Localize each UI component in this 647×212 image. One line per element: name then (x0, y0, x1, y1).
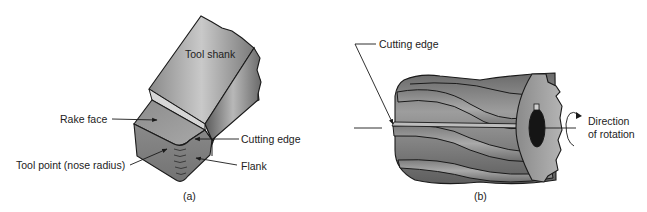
label-direction: Direction (588, 115, 630, 127)
leader-cutting-edge-b (355, 44, 393, 124)
single-point-tool-figure: Tool shank Rake face Cutting edge Tool p… (16, 16, 301, 202)
label-tool-shank: Tool shank (185, 48, 236, 60)
label-of-rotation: of rotation (588, 128, 635, 140)
label-cutting-edge-b: Cutting edge (379, 38, 439, 50)
label-rake-face: Rake face (60, 113, 107, 125)
label-tool-point: Tool point (nose radius) (16, 159, 125, 171)
caption-a: (a) (183, 190, 196, 202)
milling-cutter-figure: Cutting edge Direction of rotation (b) (354, 38, 635, 202)
caption-b: (b) (474, 190, 487, 202)
label-cutting-edge-a: Cutting edge (241, 133, 301, 145)
keyway (534, 104, 539, 110)
label-flank: Flank (241, 160, 267, 172)
diagram-canvas: Tool shank Rake face Cutting edge Tool p… (0, 0, 647, 212)
